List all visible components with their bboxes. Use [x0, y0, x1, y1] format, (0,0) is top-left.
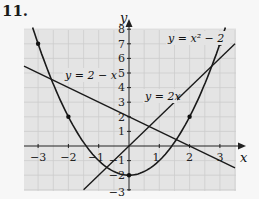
equation-label-parabola: y = x² − 2	[167, 32, 224, 45]
y-tick-label: 5	[118, 67, 125, 80]
y-axis-label: y	[119, 10, 128, 25]
y-tick-label: 6	[118, 52, 125, 65]
x-tick-label: 2	[186, 151, 193, 164]
x-tick-label: −3	[30, 151, 46, 164]
point-2-2	[187, 115, 191, 119]
point-neg2-2	[66, 115, 70, 119]
y-tick-label: −3	[109, 186, 125, 199]
y-tick-label: 7	[118, 38, 125, 51]
point-neg3-7	[36, 42, 40, 46]
x-axis-arrow-icon	[238, 143, 246, 150]
y-tick-label: 1	[118, 125, 125, 138]
y-tick-label: 3	[118, 96, 125, 109]
y-tick-label: 4	[118, 81, 125, 94]
x-tick-label: −2	[60, 151, 76, 164]
point-0-neg2	[127, 173, 131, 177]
y-tick-label: −1	[109, 154, 125, 167]
graph: −3 −2 −1 1 2 3 8 7 6 5 4 3 2 1 −1 −2 −3 …	[0, 0, 259, 199]
equation-label-line-decreasing: y = 2 − x	[64, 69, 118, 82]
x-axis-label: x	[240, 150, 248, 165]
plot-area	[24, 30, 236, 191]
equation-label-line-increasing: y = 2x	[144, 90, 181, 103]
